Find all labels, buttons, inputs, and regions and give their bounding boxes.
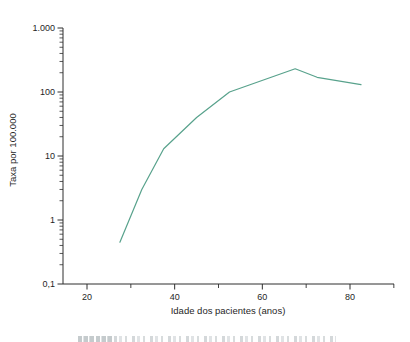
chart-page: 1.0001001010,1 20406080 Idade dos pacien…	[0, 0, 410, 342]
axis-spines	[63, 28, 394, 284]
x-tick-label: 80	[345, 292, 355, 302]
y-tick-label: 0,1	[42, 279, 55, 289]
y-tick-label: 1.000	[32, 23, 55, 33]
y-tick-label: 10	[45, 151, 55, 161]
x-tick-label: 40	[170, 292, 180, 302]
x-axis-title: Idade dos pacientes (anos)	[171, 305, 286, 316]
y-tick-label: 100	[40, 87, 55, 97]
cropped-caption-text	[78, 336, 336, 342]
y-tick-label: 1	[50, 215, 55, 225]
x-tick-label: 60	[257, 292, 267, 302]
x-axis-ticks: 20406080	[82, 284, 394, 302]
x-tick-label: 20	[82, 292, 92, 302]
chart-canvas: 1.0001001010,1 20406080 Idade dos pacien…	[0, 0, 410, 330]
data-series	[120, 69, 361, 242]
line-chart: 1.0001001010,1 20406080 Idade dos pacien…	[0, 0, 410, 330]
series-line	[120, 69, 361, 242]
y-axis-title: Taxa por 100.000	[7, 113, 18, 186]
axes	[63, 28, 394, 284]
y-axis-ticks: 1.0001001010,1	[32, 23, 63, 289]
